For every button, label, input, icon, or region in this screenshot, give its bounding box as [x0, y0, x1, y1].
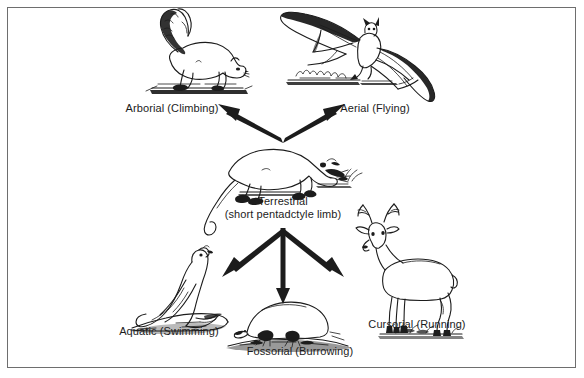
diagram-canvas: .ink { fill: none; stroke: #1c1c1c; stro… — [0, 0, 584, 378]
label-fossorial: Fossorial (Burrowing) — [225, 345, 375, 358]
label-aerial: Aerial (Flying) — [325, 102, 425, 115]
label-aquatic: Aquatic (Swimming) — [104, 325, 234, 338]
animal-shrew — [204, 149, 362, 235]
label-terrestrial-line1: Terrestrial — [195, 195, 371, 208]
animal-sea-lion — [130, 246, 228, 335]
arrow-to-fossorial — [276, 228, 290, 304]
label-terrestrial: Terrestrial (short pentadctyle limb) — [195, 195, 371, 221]
animal-squirrel — [146, 9, 252, 94]
figure-root: .ink { fill: none; stroke: #1c1c1c; stro… — [0, 0, 584, 378]
animal-bat — [281, 12, 435, 101]
label-terrestrial-line2: (short pentadctyle limb) — [195, 208, 371, 221]
label-arborial: Arborial (Climbing) — [113, 102, 231, 115]
arrow-to-cursorial — [280, 228, 344, 277]
label-cursorial: Cursorial (Running) — [355, 318, 479, 331]
arrow-to-aquatic — [222, 228, 286, 277]
